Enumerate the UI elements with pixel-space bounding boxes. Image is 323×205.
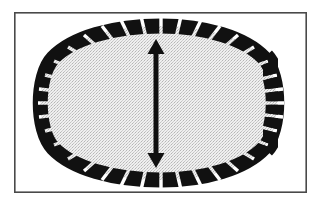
arrow-shaft — [154, 48, 159, 159]
right-flank-thick-segments — [264, 58, 277, 148]
oval-diagram-canvas — [0, 0, 323, 205]
figure-root: Segmented oval outline with vertical dou… — [0, 0, 323, 205]
